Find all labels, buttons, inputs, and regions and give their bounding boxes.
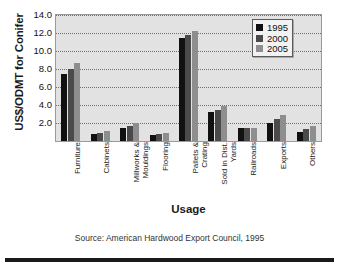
bar bbox=[310, 126, 316, 141]
bar-group bbox=[115, 15, 144, 141]
x-tick-label: Millworks & Mouldings bbox=[133, 142, 145, 198]
bar bbox=[68, 69, 74, 141]
bar bbox=[74, 63, 80, 141]
legend-swatch-icon bbox=[256, 24, 263, 31]
bar bbox=[221, 106, 227, 141]
legend-item[interactable]: 2000 bbox=[256, 33, 288, 43]
bar bbox=[251, 128, 257, 142]
bar-group bbox=[203, 15, 232, 141]
x-tick-label: Sold in Dist. Yards bbox=[221, 142, 233, 198]
bar-group bbox=[144, 15, 173, 141]
legend-swatch-icon bbox=[256, 35, 263, 42]
x-tick-label: Railroads bbox=[250, 142, 262, 198]
bar bbox=[61, 74, 67, 141]
legend-item[interactable]: 2005 bbox=[256, 44, 288, 54]
bar bbox=[303, 129, 309, 141]
y-tick-label: 12.0 bbox=[12, 28, 52, 37]
x-tick-label: Pallets & Crating bbox=[192, 142, 204, 198]
bottom-divider bbox=[5, 258, 334, 262]
bar bbox=[163, 133, 169, 141]
x-tick-label: Cabinets bbox=[103, 142, 115, 198]
legend-label: 1995 bbox=[267, 23, 288, 32]
bar bbox=[185, 35, 191, 141]
y-tick-label: 6.0 bbox=[12, 82, 52, 91]
bar bbox=[215, 110, 221, 141]
bar bbox=[244, 128, 250, 142]
y-tick-label: 2.0 bbox=[12, 118, 52, 127]
bar bbox=[156, 134, 162, 141]
bar-group bbox=[85, 15, 114, 141]
bar bbox=[120, 128, 126, 142]
bar bbox=[192, 31, 198, 141]
bar bbox=[91, 134, 97, 141]
bar bbox=[133, 123, 139, 141]
bar bbox=[274, 119, 280, 141]
bar-group bbox=[56, 15, 85, 141]
x-tick-label: Others bbox=[309, 142, 321, 198]
legend-label: 2005 bbox=[267, 44, 288, 53]
chart-figure: US$/ODMT for Conifer 2.04.06.08.010.012.… bbox=[0, 0, 339, 273]
x-axis-title: Usage bbox=[55, 203, 322, 215]
x-tick-label: Furniture bbox=[74, 142, 86, 198]
bar bbox=[280, 115, 286, 141]
bar-group bbox=[292, 15, 321, 141]
bar-group bbox=[174, 15, 203, 141]
x-axis-tick-labels: FurnitureCabinetsMillworks & MouldingsFl… bbox=[55, 144, 322, 200]
bar bbox=[297, 132, 303, 141]
legend-item[interactable]: 1995 bbox=[256, 23, 288, 33]
bar bbox=[179, 38, 185, 141]
legend-label: 2000 bbox=[267, 34, 288, 43]
chart-legend[interactable]: 199520002005 bbox=[252, 19, 293, 57]
bar bbox=[267, 123, 273, 141]
bar bbox=[97, 133, 103, 141]
y-tick-label: 14.0 bbox=[12, 10, 52, 19]
bar bbox=[127, 126, 133, 141]
bar bbox=[238, 128, 244, 142]
bar bbox=[150, 135, 156, 141]
source-note: Source: American Hardwood Export Council… bbox=[0, 233, 339, 243]
y-tick-label: 4.0 bbox=[12, 100, 52, 109]
y-tick-label: 10.0 bbox=[12, 46, 52, 55]
bar bbox=[208, 112, 214, 141]
y-tick-label: 8.0 bbox=[12, 64, 52, 73]
bar bbox=[104, 131, 110, 141]
x-tick-label: Flooring bbox=[162, 142, 174, 198]
legend-swatch-icon bbox=[256, 45, 263, 52]
x-tick-label: Exports bbox=[280, 142, 292, 198]
